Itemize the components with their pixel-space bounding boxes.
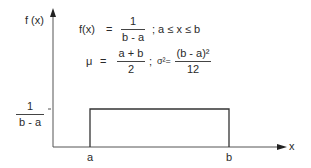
fraction-bar [175,61,211,62]
pdf-fraction: 1 b - a [121,15,145,43]
y-axis-label: f (x) [25,14,44,26]
variance-numerator: (b - a)² [177,47,210,59]
pdf-lhs: f(x) [79,23,95,35]
pdf-numerator: 1 [130,15,136,27]
fraction-bar [121,29,145,30]
mean-denominator: 2 [128,63,134,75]
fraction-bar [117,61,145,62]
fraction-bar [16,114,44,115]
variance-fraction: (b - a)² 12 [175,47,211,75]
x-tick-b: b [226,151,232,163]
mean-numerator: a + b [119,47,144,59]
sigma-squared: σ²= [157,55,171,67]
y-tick-fraction: 1 b - a [16,100,44,128]
y-tick-numerator: 1 [27,100,33,112]
x-tick-a: a [87,151,93,163]
pdf-equals: = [106,23,112,35]
x-axis-label: x [289,140,295,152]
y-axis-arrow-icon [50,8,56,17]
uniform-density-box [90,109,229,147]
mean-fraction: a + b 2 [117,47,145,75]
y-tick-denominator: b - a [19,116,41,128]
x-axis-arrow-icon [277,144,287,150]
pdf-denominator: b - a [122,31,144,43]
mu-equals: = [100,55,106,67]
variance-denominator: 12 [187,63,199,75]
mu-symbol: μ [86,55,92,67]
moments-separator: ; [149,55,152,67]
pdf-condition: ; a ≤ x ≤ b [152,23,200,35]
